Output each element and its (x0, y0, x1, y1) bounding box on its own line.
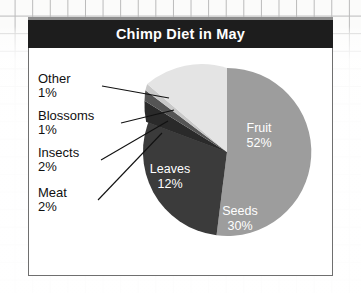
pie-chart-plot-area: Fruit 52% Seeds 30% Leaves 12% Other 1% … (28, 48, 333, 276)
page-title: Chimp Diet in May (116, 26, 245, 42)
slice-label-seeds-value: 30% (227, 219, 252, 233)
outer-label-meat: Meat 2% (38, 186, 67, 214)
outer-label-insects-value: 2% (38, 160, 79, 174)
chart-title-bar: Chimp Diet in May (28, 17, 333, 48)
outer-label-other: Other 1% (38, 72, 71, 100)
slice-label-leaves-name: Leaves (150, 162, 190, 176)
slice-label-fruit-value: 52% (246, 136, 271, 150)
outer-label-blossoms: Blossoms 1% (38, 109, 94, 137)
outer-label-other-name: Other (38, 71, 71, 86)
slice-label-leaves-value: 12% (157, 177, 182, 191)
outer-label-blossoms-value: 1% (38, 123, 94, 137)
outer-label-meat-name: Meat (38, 185, 67, 200)
outer-label-blossoms-name: Blossoms (38, 108, 94, 123)
slice-label-seeds-name: Seeds (222, 204, 257, 218)
outer-label-other-value: 1% (38, 86, 71, 100)
slice-label-fruit-name: Fruit (247, 121, 273, 135)
outer-label-insects: Insects 2% (38, 146, 79, 174)
outer-label-insects-name: Insects (38, 145, 79, 160)
outer-label-meat-value: 2% (38, 200, 67, 214)
